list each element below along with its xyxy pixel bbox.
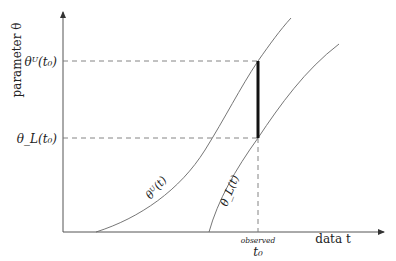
upper-curve (96, 18, 291, 232)
x-axis-label: data t (315, 232, 351, 246)
t0-label: t₀ (253, 245, 263, 259)
upper-level-label: θᵁ(t₀) (24, 55, 57, 69)
upper-curve-label: θᵁ(t) (143, 174, 169, 202)
lower-level-label: θ_L(t₀) (17, 132, 58, 146)
y-axis-label: parameter θ (10, 23, 24, 98)
confidence-interval-diagram: parameter θ θᵁ(t₀) θ_L(t₀) θᵁ(t) θ_L(t) … (0, 0, 396, 261)
observed-caption: observed (241, 236, 276, 245)
lower-curve-label: θ_L(t) (218, 173, 242, 208)
